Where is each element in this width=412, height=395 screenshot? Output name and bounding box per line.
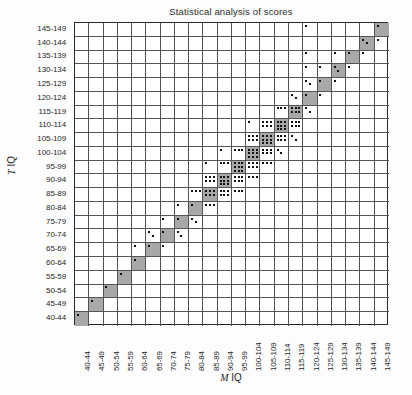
- matrix-cell: [332, 298, 346, 312]
- cell-dots: [246, 119, 259, 132]
- matrix-cell: [275, 92, 289, 106]
- dot-spacer: [309, 73, 311, 75]
- matrix-cell: [189, 119, 203, 133]
- dot-spacer: [134, 262, 136, 264]
- matrix-cell: [218, 188, 232, 202]
- matrix-cell: [360, 37, 374, 51]
- data-dot: [284, 128, 286, 130]
- dot-spacer: [266, 128, 268, 130]
- dot-spacer: [323, 73, 325, 75]
- dot-spacer: [284, 111, 286, 113]
- dot-spacer: [366, 56, 368, 58]
- data-dot: [280, 135, 282, 137]
- dot-spacer: [77, 318, 79, 320]
- dot-spacer: [262, 170, 264, 172]
- matrix-cell: [289, 23, 303, 37]
- matrix-cell: [289, 92, 303, 106]
- data-dot: [266, 121, 268, 123]
- matrix-cell: [161, 23, 175, 37]
- matrix-cell: [375, 174, 389, 188]
- matrix-cell: [203, 243, 217, 257]
- matrix-cell: [75, 133, 89, 147]
- data-dot: [305, 52, 307, 54]
- dot-spacer: [280, 111, 282, 113]
- data-dot: [298, 107, 300, 109]
- matrix-cell: [118, 229, 132, 243]
- matrix-cell: [332, 106, 346, 120]
- matrix-cell: [104, 133, 118, 147]
- matrix-cell: [218, 51, 232, 65]
- cell-dots: [289, 92, 302, 105]
- dot-spacer: [248, 142, 250, 144]
- data-dot: [277, 149, 279, 151]
- matrix-cell: [375, 285, 389, 299]
- matrix-cell: [189, 202, 203, 216]
- matrix-cell: [275, 147, 289, 161]
- matrix-cell: [175, 312, 189, 326]
- matrix-cell: [203, 64, 217, 78]
- data-dot: [241, 180, 243, 182]
- matrix-cell: [132, 106, 146, 120]
- matrix-cell: [189, 64, 203, 78]
- cell-dots: [175, 202, 188, 215]
- dot-spacer: [109, 294, 111, 296]
- matrix-cell: [203, 37, 217, 51]
- dot-spacer: [205, 197, 207, 199]
- matrix-cell: [189, 147, 203, 161]
- matrix-cell: [161, 257, 175, 271]
- matrix-cell: [203, 147, 217, 161]
- cell-dots: [375, 37, 389, 50]
- matrix-cell: [346, 298, 360, 312]
- matrix-cell: [218, 133, 232, 147]
- x-tick-label: 65-69: [156, 351, 164, 371]
- matrix-cell: [203, 257, 217, 271]
- matrix-cell: [203, 51, 217, 65]
- dot-spacer: [166, 218, 168, 220]
- matrix-cell: [360, 243, 374, 257]
- matrix-cell: [118, 23, 132, 37]
- matrix-cell: [318, 174, 332, 188]
- matrix-cell: [161, 298, 175, 312]
- x-tick-label: 95-99: [241, 351, 249, 371]
- matrix-cell: [246, 23, 260, 37]
- x-axis-title-unit: IQ: [229, 372, 242, 383]
- data-dot: [266, 162, 268, 164]
- cell-dots: [246, 133, 259, 146]
- dot-spacer: [284, 152, 286, 154]
- data-dot: [241, 166, 243, 168]
- matrix-cell: [118, 78, 132, 92]
- matrix-cell: [275, 37, 289, 51]
- dot-spacer: [362, 42, 364, 44]
- matrix-cell: [303, 285, 317, 299]
- data-dot: [227, 194, 229, 196]
- data-dot: [91, 300, 93, 302]
- matrix-cell: [146, 202, 160, 216]
- matrix-cell: [189, 106, 203, 120]
- dot-spacer: [162, 252, 164, 254]
- dot-spacer: [148, 238, 150, 240]
- matrix-cell: [346, 202, 360, 216]
- y-tick-label: 70-74: [46, 231, 66, 239]
- x-tick-label: 140-144: [370, 342, 378, 371]
- dot-spacer: [166, 252, 168, 254]
- matrix-cell: [161, 271, 175, 285]
- matrix-cell: [375, 216, 389, 230]
- dot-spacer: [252, 121, 254, 123]
- dot-spacer: [162, 238, 164, 240]
- matrix-cell: [260, 37, 274, 51]
- matrix-cell: [375, 106, 389, 120]
- matrix-cell: [260, 23, 274, 37]
- matrix-cell: [104, 64, 118, 78]
- dot-spacer: [348, 73, 350, 75]
- dot-spacer: [313, 56, 315, 58]
- data-dot: [195, 190, 197, 192]
- data-dot: [248, 166, 250, 168]
- data-dot: [191, 204, 193, 206]
- dot-spacer: [199, 218, 201, 220]
- matrix-cell: [218, 147, 232, 161]
- dot-spacer: [291, 128, 293, 130]
- dot-spacer: [177, 221, 179, 223]
- cell-dots: [303, 23, 316, 36]
- dot-spacer: [337, 56, 339, 58]
- dot-spacer: [156, 231, 158, 233]
